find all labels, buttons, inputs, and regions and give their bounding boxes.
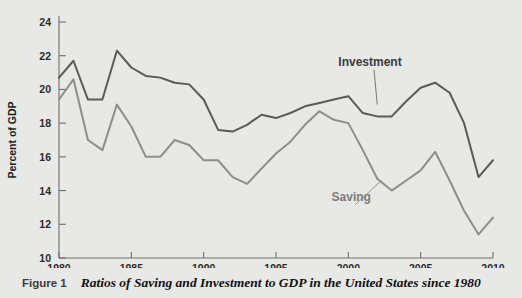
y-axis-title: Percent of GDP <box>6 101 18 178</box>
y-tick-label: 20 <box>39 83 51 95</box>
series-line-saving <box>59 79 493 234</box>
chart-plot-area: 1012141618202224198019851990199520002005… <box>0 0 522 268</box>
y-tick-label: 12 <box>39 218 51 230</box>
y-tick-label: 24 <box>39 16 51 28</box>
y-tick-label: 22 <box>39 50 51 62</box>
series-annotation-investment: Investment <box>338 55 401 69</box>
y-tick-label: 18 <box>39 117 51 129</box>
figure-container: 1012141618202224198019851990199520002005… <box>0 0 522 298</box>
caption-title-text: Ratios of Saving and Investment to GDP i… <box>81 275 481 291</box>
leader-line-investment <box>374 70 377 105</box>
figure-caption: Figure 1 Ratios of Saving and Investment… <box>0 268 522 298</box>
series-annotation-saving: Saving <box>332 190 371 204</box>
saving-investment-line-chart: 1012141618202224198019851990199520002005… <box>0 0 522 268</box>
y-tick-label: 14 <box>39 185 51 197</box>
y-tick-label: 16 <box>39 151 51 163</box>
caption-figure-number: Figure 1 <box>22 277 67 289</box>
